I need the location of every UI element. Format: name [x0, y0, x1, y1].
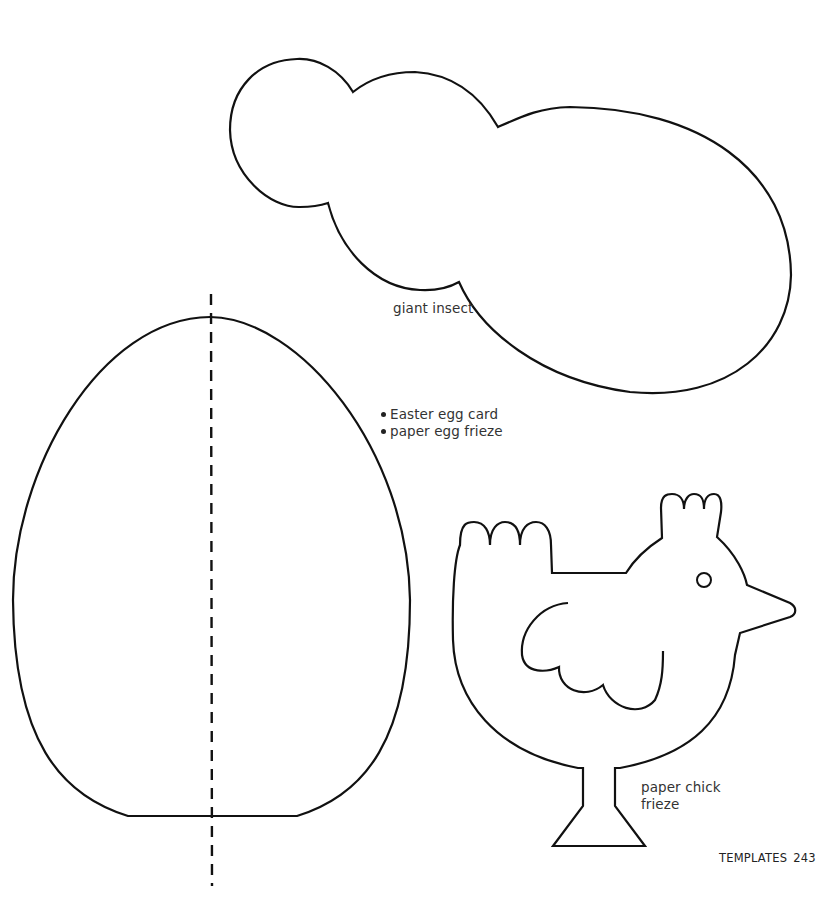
page-number: 243	[793, 851, 816, 865]
page-footer: TEMPLATES243	[719, 851, 816, 865]
giant-insect-outline	[230, 59, 791, 393]
chick-label: paper chick frieze	[641, 779, 721, 813]
egg-use-item: paper egg frieze	[380, 423, 503, 440]
chick-wing	[522, 603, 663, 709]
chick-eye	[697, 573, 711, 587]
templates-artwork	[0, 0, 830, 911]
chick-label-line1: paper chick	[641, 779, 721, 796]
footer-section: TEMPLATES	[719, 851, 787, 865]
egg-fold-line	[211, 294, 212, 886]
egg-use-item: Easter egg card	[380, 406, 503, 423]
egg-uses-list: Easter egg card paper egg frieze	[380, 406, 503, 440]
giant-insect-label: giant insect	[393, 300, 473, 317]
chick-outline	[453, 494, 795, 846]
chick-label-line2: frieze	[641, 796, 721, 813]
